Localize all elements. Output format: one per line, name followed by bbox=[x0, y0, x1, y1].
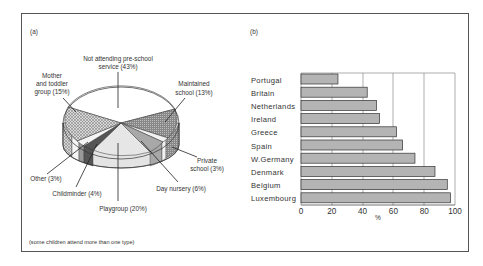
category-label: Netherlands bbox=[251, 102, 295, 111]
bar-britain bbox=[301, 87, 367, 97]
pie-chart: Not attending pre-school service (43%) M… bbox=[29, 55, 224, 245]
category-label: Belgium bbox=[251, 181, 281, 190]
label-day-nursery: Day nursery (6%) bbox=[156, 185, 206, 193]
category-label: Greece bbox=[251, 128, 278, 137]
label-playgroup: Playgroup (20%) bbox=[99, 205, 147, 213]
x-tick-label: 60 bbox=[389, 207, 399, 216]
bars bbox=[301, 74, 450, 203]
label-mother-line2: and toddler bbox=[36, 80, 69, 87]
bar-netherlands bbox=[301, 100, 376, 110]
bar-spain bbox=[301, 140, 403, 150]
bar-denmark bbox=[301, 166, 435, 176]
bar-portugal bbox=[301, 74, 338, 84]
category-label: Denmark bbox=[251, 168, 284, 177]
label-maintained-line1: Maintained bbox=[178, 80, 210, 87]
figure-canvas: (a) (b) bbox=[0, 0, 483, 266]
bar-ireland bbox=[301, 114, 380, 124]
category-label: Ireland bbox=[251, 115, 276, 124]
category-label: Portugal bbox=[251, 76, 282, 85]
panel-b-label: (b) bbox=[250, 28, 258, 36]
x-tick-label: 100 bbox=[448, 207, 462, 216]
category-label: Luxembourg bbox=[251, 194, 296, 203]
label-mother-line1: Mother bbox=[42, 72, 63, 79]
label-private-line1: Private bbox=[197, 157, 217, 164]
label-other: Other (3%) bbox=[30, 175, 61, 183]
bar-wgermany bbox=[301, 153, 415, 163]
x-axis-label: % bbox=[375, 214, 381, 221]
x-tick-label: 80 bbox=[420, 207, 430, 216]
category-label: Spain bbox=[251, 142, 272, 151]
footnote: (some children attend more than one type… bbox=[29, 239, 135, 245]
label-not-attending-line1: Not attending pre-school bbox=[83, 55, 153, 63]
label-private-line2: school (3%) bbox=[190, 165, 224, 173]
bar-greece bbox=[301, 127, 396, 137]
x-tick-label: 20 bbox=[327, 207, 337, 216]
category-label: Britain bbox=[251, 89, 275, 98]
label-childminder: Childminder (4%) bbox=[52, 190, 101, 198]
bar-belgium bbox=[301, 180, 447, 190]
category-labels: PortugalBritainNetherlandsIrelandGreeceS… bbox=[251, 76, 296, 204]
panel-a-label: (a) bbox=[30, 28, 38, 36]
label-mother-line3: group (15%) bbox=[34, 88, 69, 96]
label-maintained-line2: school (13%) bbox=[175, 89, 212, 97]
category-label: W.Germany bbox=[251, 155, 294, 164]
bar-luxembourg bbox=[301, 193, 450, 203]
bar-chart: PortugalBritainNetherlandsIrelandGreeceS… bbox=[251, 73, 462, 221]
label-not-attending-line2: service (43%) bbox=[98, 63, 137, 71]
x-tick-label: 40 bbox=[358, 207, 368, 216]
x-tick-label: 0 bbox=[299, 207, 304, 216]
